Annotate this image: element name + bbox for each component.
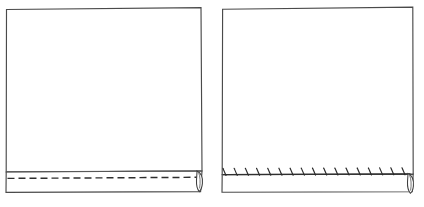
right-fabric-outline bbox=[222, 7, 413, 174]
left-panel bbox=[6, 8, 203, 193]
left-hem-band bbox=[6, 171, 202, 192]
left-fabric-outline bbox=[6, 8, 202, 172]
right-panel bbox=[222, 7, 414, 193]
figure-container: Machine-stitched hem with rolled edge Ha… bbox=[0, 0, 424, 207]
hem-diagram-svg bbox=[0, 0, 424, 207]
right-hem-band bbox=[222, 174, 413, 192]
